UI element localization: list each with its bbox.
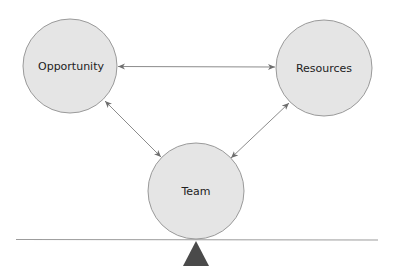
- resources-label: Resources: [296, 62, 352, 75]
- team-label: Team: [180, 185, 210, 198]
- node-team: Team: [148, 143, 244, 239]
- fulcrum-triangle-icon: [183, 241, 209, 266]
- arrow-resources-team: [231, 103, 289, 158]
- arrow-opportunity-resources: [118, 67, 275, 68]
- node-opportunity: Opportunity: [23, 19, 117, 113]
- balance-diagram: Opportunity Resources Team: [0, 0, 393, 280]
- arrow-opportunity-team: [105, 101, 161, 157]
- balance-beam: [16, 240, 378, 241]
- opportunity-label: Opportunity: [38, 60, 105, 73]
- node-resources: Resources: [276, 20, 372, 116]
